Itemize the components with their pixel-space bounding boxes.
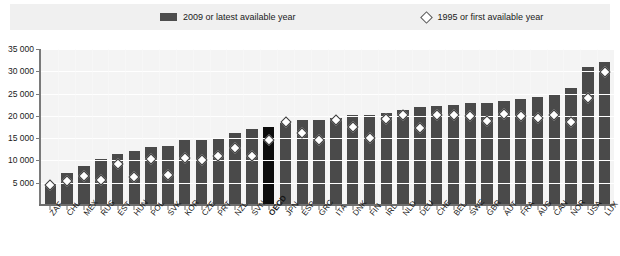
x-label-slot: ZAF: [42, 206, 59, 254]
diamond-marker-aus[interactable]: [532, 112, 543, 123]
bar-kor[interactable]: [179, 140, 190, 205]
x-label-slot: FRA: [512, 206, 529, 254]
x-label-slot: NZL: [227, 206, 244, 254]
bar-gbr[interactable]: [481, 103, 492, 206]
y-tick-label: 35 000: [8, 44, 34, 54]
x-label-slot: JPN: [277, 206, 294, 254]
bar-usa[interactable]: [582, 67, 593, 205]
bar-hun[interactable]: [129, 151, 140, 205]
diamond-marker-swe[interactable]: [465, 110, 476, 121]
x-label-slot: GBR: [479, 206, 496, 254]
x-label-slot: OECD: [260, 206, 277, 254]
vertical-gridline: [530, 49, 531, 205]
bar-irl[interactable]: [381, 113, 392, 205]
bar-slot: [344, 49, 361, 205]
diamond-marker-nld[interactable]: [397, 110, 408, 121]
vertical-gridline: [142, 49, 143, 205]
vertical-gridline: [378, 49, 379, 205]
vertical-gridline: [75, 49, 76, 205]
x-label-slot: PRT: [210, 206, 227, 254]
diamond-marker-kor[interactable]: [179, 153, 190, 164]
bar-can[interactable]: [549, 95, 560, 205]
diamond-marker-bel[interactable]: [448, 109, 459, 120]
vertical-gridline: [563, 49, 564, 205]
bar-chl[interactable]: [61, 173, 72, 205]
bar-bel[interactable]: [448, 105, 459, 205]
bar-slot: [42, 49, 59, 205]
diamond-marker-mex[interactable]: [78, 171, 89, 182]
diamond-marker-svk[interactable]: [162, 169, 173, 180]
bar-che[interactable]: [431, 106, 442, 205]
bar-nzl[interactable]: [229, 133, 240, 205]
x-label-slot: AUS: [529, 206, 546, 254]
vertical-gridline: [92, 49, 93, 205]
diamond-marker-che[interactable]: [431, 109, 442, 120]
diamond-marker-hun[interactable]: [129, 172, 140, 183]
x-label-slot: NLD: [395, 206, 412, 254]
diamond-marker-irl[interactable]: [381, 113, 392, 124]
bar-pol[interactable]: [145, 147, 156, 205]
diamond-marker-deu[interactable]: [414, 122, 425, 133]
bar-slot: [210, 49, 227, 205]
bar-cze[interactable]: [196, 140, 207, 205]
bar-slot: [76, 49, 93, 205]
vertical-gridline: [294, 49, 295, 205]
diamond-marker-nzl[interactable]: [229, 143, 240, 154]
bar-slot: [294, 49, 311, 205]
bar-grc[interactable]: [313, 120, 324, 205]
diamond-marker-grc[interactable]: [313, 135, 324, 146]
diamond-marker-chl[interactable]: [62, 176, 73, 187]
y-tick-label: 25 000: [8, 89, 34, 99]
bar-slot: [580, 49, 597, 205]
diamond-marker-can[interactable]: [549, 110, 560, 121]
y-tick-mark: [36, 183, 40, 184]
x-axis-category-labels: ZAFCHLMEXRUSESTHUNPOLSVKKORCZEPRTNZLSVNO…: [41, 206, 614, 254]
diamond-marker-esp[interactable]: [297, 127, 308, 138]
legend-label-1995: 1995 or first available year: [438, 12, 544, 22]
vertical-gridline: [395, 49, 396, 205]
diamond-marker-aut[interactable]: [498, 108, 509, 119]
diamond-marker-zaf[interactable]: [45, 179, 56, 190]
bar-aus[interactable]: [532, 97, 543, 205]
diamond-marker-rus[interactable]: [95, 174, 106, 185]
bar-slot: [428, 49, 445, 205]
bar-slot: [596, 49, 613, 205]
bar-oecd[interactable]: [263, 127, 274, 205]
diamond-marker-nor[interactable]: [565, 116, 576, 127]
diamond-marker-fin[interactable]: [364, 132, 375, 143]
y-tick-label: 15 000: [8, 133, 34, 143]
bar-esp[interactable]: [297, 120, 308, 205]
bar-nor[interactable]: [565, 88, 576, 205]
bar-swe[interactable]: [465, 103, 476, 205]
x-label-slot: IRL: [378, 206, 395, 254]
bar-slot: [328, 49, 345, 205]
diamond-marker-cze[interactable]: [196, 154, 207, 165]
vertical-gridline: [328, 49, 329, 205]
vertical-gridline: [445, 49, 446, 205]
diamond-marker-dnk[interactable]: [347, 122, 358, 133]
diamond-marker-jpn[interactable]: [280, 116, 291, 127]
bar-slot: [529, 49, 546, 205]
bar-mex[interactable]: [78, 166, 89, 205]
bar-deu[interactable]: [414, 107, 425, 205]
x-label-slot: AUT: [496, 206, 513, 254]
x-label-slot: BEL: [445, 206, 462, 254]
bar-nld[interactable]: [397, 110, 408, 205]
bar-slot: [92, 49, 109, 205]
bar-svn[interactable]: [246, 129, 257, 205]
bar-prt[interactable]: [213, 138, 224, 205]
bar-fra[interactable]: [515, 99, 526, 205]
bar-swatch-icon: [160, 13, 177, 21]
diamond-marker-fra[interactable]: [515, 111, 526, 122]
x-label-slot: SVK: [160, 206, 177, 254]
vertical-gridline: [176, 49, 177, 205]
bar-est[interactable]: [112, 154, 123, 205]
diamond-marker-oecd[interactable]: [263, 135, 274, 146]
diamond-marker-pol[interactable]: [146, 153, 157, 164]
y-tick-mark: [36, 160, 40, 161]
x-label-slot: EST: [109, 206, 126, 254]
x-label-slot: NOR: [563, 206, 580, 254]
bar-svk[interactable]: [162, 146, 173, 205]
diamond-marker-lux[interactable]: [599, 67, 610, 78]
vertical-gridline: [344, 49, 345, 205]
